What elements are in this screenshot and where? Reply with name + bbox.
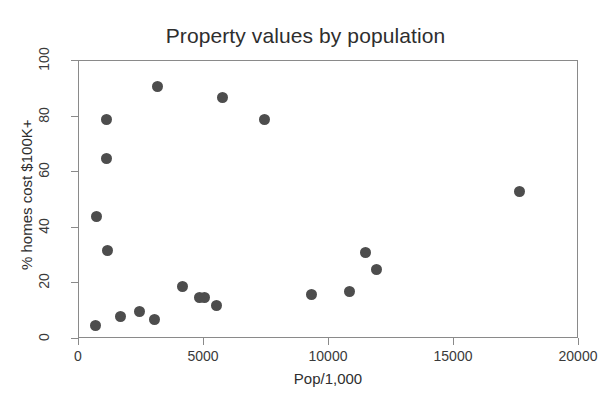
x-tick-mark	[78, 338, 79, 345]
data-point	[211, 300, 222, 311]
x-tick-label: 20000	[538, 348, 611, 364]
y-axis-title: % homes cost $100K+	[18, 119, 35, 270]
data-point	[514, 186, 525, 197]
x-tick-label: 5000	[163, 348, 243, 364]
y-tick-label: 40	[36, 206, 52, 246]
data-point	[101, 153, 112, 164]
x-tick-mark	[328, 338, 329, 345]
x-tick-label: 15000	[413, 348, 493, 364]
x-tick-label: 10000	[288, 348, 368, 364]
y-tick-mark	[71, 338, 78, 339]
data-point	[360, 247, 371, 258]
y-tick-mark	[71, 171, 78, 172]
scatter-plot-figure: Property values by population % homes co…	[0, 0, 611, 395]
data-point	[115, 311, 126, 322]
data-point	[199, 292, 210, 303]
data-point	[217, 92, 228, 103]
data-point	[90, 320, 101, 331]
plot-area	[78, 60, 578, 338]
y-tick-label: 80	[36, 95, 52, 135]
data-point	[344, 286, 355, 297]
data-points-layer	[79, 61, 577, 337]
x-tick-mark	[453, 338, 454, 345]
data-point	[91, 211, 102, 222]
data-point	[177, 281, 188, 292]
y-tick-mark	[71, 60, 78, 61]
y-tick-label: 100	[36, 39, 52, 79]
y-tick-mark	[71, 227, 78, 228]
x-tick-mark	[203, 338, 204, 345]
y-tick-label: 60	[36, 150, 52, 190]
x-tick-mark	[578, 338, 579, 345]
data-point	[149, 314, 160, 325]
data-point	[101, 114, 112, 125]
x-axis-title: Pop/1,000	[78, 370, 578, 387]
data-point	[152, 81, 163, 92]
data-point	[134, 306, 145, 317]
x-tick-label: 0	[38, 348, 118, 364]
y-tick-mark	[71, 116, 78, 117]
data-point	[259, 114, 270, 125]
data-point	[371, 264, 382, 275]
chart-title: Property values by population	[0, 24, 611, 48]
data-point	[102, 245, 113, 256]
y-tick-mark	[71, 282, 78, 283]
y-tick-label: 20	[36, 261, 52, 301]
data-point	[306, 289, 317, 300]
